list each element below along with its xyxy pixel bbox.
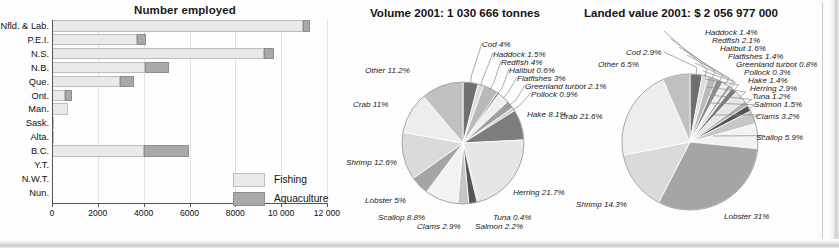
bar-axis-tick [52, 203, 53, 207]
bar-chart-title: Number employed [60, 4, 310, 16]
bar-category-label: N.W.T. [22, 173, 49, 186]
bar-segment-aquaculture [264, 48, 274, 60]
bar-category-label: N.B. [31, 62, 49, 75]
legend-swatch-fishing [233, 173, 265, 187]
bar-category-label: Nfld. & Lab. [0, 20, 49, 33]
bar-row: Ont. [0, 90, 340, 103]
bar-segment-aquaculture [137, 34, 146, 46]
pie-label-scallop: Scallop 8.8% [378, 213, 425, 222]
bar-axis-tick-label: 6000 [167, 208, 213, 218]
bar-category-label: Alta. [30, 131, 49, 144]
bar-category-label: P.E.I. [27, 34, 49, 47]
value-pie-svg [560, 0, 839, 248]
bar-category-label: Que. [29, 76, 49, 89]
page-edge-bottom [0, 239, 839, 248]
bar-axis-tick-label: 0 [29, 208, 75, 218]
pie-label-lobster: Lobster 5% [365, 196, 406, 205]
bar-axis-tick-label: 2000 [75, 208, 121, 218]
bar-category-label: B.C. [31, 145, 49, 158]
pie-label-leader [471, 43, 483, 84]
bar-segment-aquaculture [144, 145, 190, 157]
volume-pie-title: Volume 2001: 1 030 666 tonnes [370, 6, 540, 19]
bar-row: N.S. [0, 48, 340, 61]
bar-row: Y.T. [0, 159, 340, 172]
value-pie-chart: Landed value 2001: $ 2 056 977 000 Haddo… [560, 0, 839, 248]
bar-segment-fishing [52, 34, 137, 46]
bar-axis-spine [52, 20, 53, 203]
pie-label-other: Other 11.2% [365, 66, 410, 75]
bar-row: P.E.I. [0, 34, 340, 47]
legend-swatch-aquaculture [233, 192, 265, 206]
value-pie-title: Landed value 2001: $ 2 056 977 000 [584, 6, 778, 19]
bar-segment-aquaculture [303, 20, 310, 32]
page-edge-right [829, 0, 839, 248]
bar-axis-tick-label: 4000 [121, 208, 167, 218]
bar-axis-tick [98, 203, 99, 207]
pie-label-leader [481, 53, 493, 86]
pie-label-herring: Herring 21.7% [513, 188, 565, 197]
pie-label-salmon: Salmon 1.5% [754, 100, 802, 109]
volume-pie-svg [345, 0, 595, 248]
bar-row: N.B. [0, 62, 340, 75]
pie-label-crab: Crab 21.6% [560, 112, 603, 121]
bar-segment-fishing [52, 90, 65, 102]
bar-category-label: N.S. [31, 48, 49, 61]
pie-label-crab: Crab 11% [353, 100, 388, 109]
bar-row: Que. [0, 76, 340, 89]
bar-segment-fishing [52, 48, 264, 60]
volume-pie-chart: Volume 2001: 1 030 666 tonnes Cod 4%Hadd… [345, 0, 595, 248]
bar-segment-fishing [52, 20, 303, 32]
legend-label-fishing: Fishing [274, 172, 307, 188]
bar-row: Man. [0, 103, 340, 116]
bar-category-label: Man. [28, 103, 49, 116]
pie-label-clams: Clams 3.2% [756, 112, 800, 121]
bar-row: B.C. [0, 145, 340, 158]
pie-label-scallop: Scallop 5.9% [756, 133, 803, 142]
bar-chart-legend: Fishing Aquaculture [233, 172, 343, 210]
pie-label-cod: Cod 4% [482, 40, 511, 49]
bar-category-label: Ont. [31, 90, 49, 103]
pie-label-leader [513, 93, 531, 110]
bar-row: Alta. [0, 131, 340, 144]
bar-chart: Number employed Nfld. & Lab.P.E.I.N.S.N.… [0, 0, 345, 248]
figure-page: Number employed Nfld. & Lab.P.E.I.N.S.N.… [0, 0, 839, 248]
bar-row: Sask. [0, 117, 340, 130]
bar-segment-fishing [52, 62, 145, 74]
bar-row: Nfld. & Lab. [0, 20, 340, 33]
bar-segment-fishing [52, 76, 120, 88]
bar-category-label: Sask. [26, 117, 49, 130]
pie-label-salmon: Salmon 2.2% [475, 222, 523, 231]
pie-label-shrimp: Shrimp 14.3% [576, 200, 627, 209]
bar-segment-fishing [52, 145, 144, 157]
bar-axis-tick [144, 203, 145, 207]
pie-label-leader [664, 31, 707, 77]
bar-segment-aquaculture [120, 76, 135, 88]
bar-segment-fishing [52, 103, 68, 115]
page-frame-line [822, 2, 823, 240]
pie-label-cod: Cod 2.9% [626, 48, 662, 57]
bar-category-label: Nun. [29, 187, 49, 200]
pie-label-leader [490, 61, 501, 90]
bar-segment-aquaculture [145, 62, 169, 74]
pie-label-clams: Clams 2.9% [417, 222, 461, 231]
bar-segment-aquaculture [65, 90, 73, 102]
pie-label-leader [498, 69, 509, 94]
bar-category-label: Y.T. [34, 159, 49, 172]
pie-label-other: Other 6.5% [598, 60, 639, 69]
pie-label-shrimp: Shrimp 12.6% [346, 158, 397, 167]
bar-axis-tick [190, 203, 191, 207]
pie-label-lobster: Lobster 31% [724, 212, 769, 221]
pie-label-tuna: Tuna 0.4% [493, 213, 532, 222]
legend-label-aquaculture: Aquaculture [274, 191, 328, 207]
